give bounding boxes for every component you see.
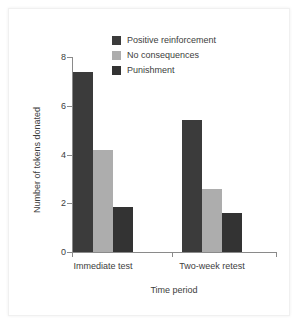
legend-item: Punishment: [112, 64, 216, 77]
bar: [73, 72, 93, 252]
category-label: Immediate test: [73, 261, 132, 271]
x-axis-line: [72, 252, 276, 253]
legend-swatch-icon: [112, 66, 121, 75]
legend-item: No consequences: [112, 49, 216, 62]
x-tick: [172, 252, 173, 257]
y-tick: [67, 106, 72, 107]
y-tick: [67, 155, 72, 156]
bar: [93, 150, 113, 252]
legend-item: Positive reinforcement: [112, 34, 216, 47]
chart-legend: Positive reinforcementNo consequencesPun…: [112, 34, 216, 79]
y-tick: [67, 203, 72, 204]
plot-area: 02468 Immediate testTwo-week retest Numb…: [0, 0, 298, 326]
y-tick-label: 2: [61, 199, 66, 208]
y-tick-label: 0: [61, 248, 66, 257]
legend-swatch-icon: [112, 51, 121, 60]
bar: [222, 213, 242, 252]
y-tick: [67, 57, 72, 58]
legend-label: No consequences: [127, 51, 199, 60]
x-tick: [276, 252, 277, 257]
bar: [182, 120, 202, 252]
bar: [202, 189, 222, 252]
legend-swatch-icon: [112, 36, 121, 45]
bar: [113, 207, 133, 252]
category-label: Two-week retest: [179, 261, 245, 271]
x-axis-title: Time period: [72, 285, 276, 295]
chart-figure: 02468 Immediate testTwo-week retest Numb…: [0, 0, 298, 326]
y-tick-label: 6: [61, 101, 66, 110]
y-tick-label: 4: [61, 150, 66, 159]
legend-label: Positive reinforcement: [127, 36, 216, 45]
y-tick-label: 8: [61, 53, 66, 62]
y-axis-title: Number of tokens donated: [32, 75, 42, 245]
x-tick: [72, 252, 73, 257]
legend-label: Punishment: [127, 66, 175, 75]
